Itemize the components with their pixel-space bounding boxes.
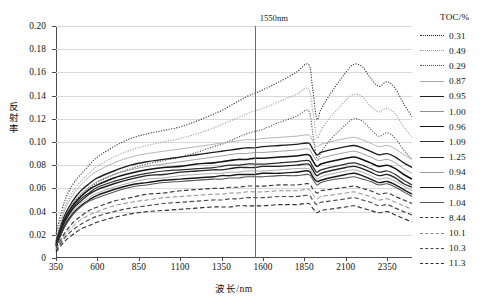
y-axis-title: 反射率: [6, 102, 20, 135]
legend-item[interactable]: 0.49: [420, 43, 502, 58]
x-tick-label: 2350: [378, 262, 397, 272]
legend-swatch: [420, 217, 444, 218]
x-tick-label: 1850: [295, 262, 314, 272]
legend-label: 10.3: [449, 243, 466, 253]
legend-item[interactable]: 11.3: [420, 256, 502, 271]
y-tick-label: 0: [41, 253, 46, 263]
y-tick-label: 0.14: [29, 91, 46, 101]
legend-swatch: [420, 126, 444, 127]
legend-swatch: [420, 96, 444, 97]
legend-label: 0.31: [449, 31, 466, 41]
x-tick-label: 350: [49, 262, 63, 272]
y-tick-label: 0.06: [29, 183, 46, 193]
legend-swatch: [420, 65, 444, 66]
legend-item[interactable]: 1.00: [420, 104, 502, 119]
legend-item[interactable]: 10.1: [420, 225, 502, 240]
series-line: [56, 64, 412, 234]
x-tick-label: 850: [132, 262, 146, 272]
legend: TOC/% 0.310.490.290.870.951.000.961.091.…: [420, 12, 502, 271]
legend-item[interactable]: 1.25: [420, 150, 502, 165]
y-tick-label: 0.18: [29, 44, 46, 54]
legend-swatch: [420, 35, 444, 36]
x-tick-label: 1350: [212, 262, 231, 272]
spectral-reflectance-chart: { "chart": { "type": "line", "y_axis_tit…: [0, 0, 502, 308]
x-tick-label: 2100: [336, 262, 355, 272]
legend-label: 0.49: [449, 46, 466, 56]
y-tick-label: 0.04: [29, 207, 46, 217]
legend-swatch: [420, 233, 444, 234]
legend-item[interactable]: 8.44: [420, 210, 502, 225]
x-tick-mark: [387, 258, 388, 261]
y-tick-label: 0.08: [29, 160, 46, 170]
legend-swatch: [420, 172, 444, 173]
legend-label: 0.96: [449, 122, 466, 132]
legend-label: 0.95: [449, 91, 466, 101]
legend-swatch: [420, 202, 444, 203]
legend-swatch: [420, 81, 444, 82]
wavelength-marker-line: [255, 26, 256, 258]
y-tick-label: 0.16: [29, 67, 46, 77]
legend-title: TOC/%: [440, 12, 502, 22]
legend-label: 8.44: [449, 213, 466, 223]
legend-label: 0.87: [449, 76, 466, 86]
series-line: [56, 149, 412, 243]
legend-swatch: [420, 248, 444, 249]
legend-item[interactable]: 0.95: [420, 89, 502, 104]
legend-item[interactable]: 0.94: [420, 165, 502, 180]
plot-area: 00.020.040.060.080.100.120.140.160.180.2…: [56, 26, 412, 258]
legend-label: 0.84: [449, 182, 466, 192]
legend-swatch: [420, 157, 444, 158]
legend-label: 11.3: [449, 258, 466, 268]
legend-swatch: [420, 187, 444, 188]
legend-swatch: [420, 111, 444, 112]
y-tick-label: 0.20: [29, 21, 46, 31]
x-tick-mark: [97, 258, 98, 261]
y-tick-label: 0.12: [29, 114, 46, 124]
series-line: [56, 203, 412, 252]
legend-label: 1.09: [449, 137, 466, 147]
legend-item[interactable]: 0.87: [420, 74, 502, 89]
x-tick-label: 600: [90, 262, 104, 272]
y-tick-label: 0.02: [29, 230, 46, 240]
legend-item[interactable]: 0.29: [420, 58, 502, 73]
legend-item[interactable]: 1.04: [420, 195, 502, 210]
legend-label: 10.1: [449, 228, 466, 238]
gridline: [56, 258, 412, 259]
x-tick-mark: [222, 258, 223, 261]
series-line: [56, 88, 412, 236]
x-tick-mark: [346, 258, 347, 261]
legend-item[interactable]: 1.09: [420, 134, 502, 149]
x-tick-label: 1100: [171, 262, 190, 272]
legend-item[interactable]: 0.84: [420, 180, 502, 195]
wavelength-marker-label: 1550nm: [260, 13, 288, 23]
y-tick-label: 0.10: [29, 137, 46, 147]
x-tick-mark: [180, 258, 181, 261]
legend-label: 0.94: [449, 167, 466, 177]
x-tick-label: 1600: [253, 262, 272, 272]
legend-item[interactable]: 0.31: [420, 28, 502, 43]
legend-label: 1.04: [449, 198, 466, 208]
legend-swatch: [420, 263, 444, 264]
legend-label: 1.25: [449, 152, 466, 162]
legend-item[interactable]: 0.96: [420, 119, 502, 134]
legend-item[interactable]: 10.3: [420, 241, 502, 256]
legend-swatch: [420, 141, 444, 142]
legend-label: 1.00: [449, 107, 466, 117]
legend-label: 0.29: [449, 61, 466, 71]
series-line: [56, 195, 412, 251]
series-line: [56, 171, 412, 247]
x-tick-mark: [304, 258, 305, 261]
legend-swatch: [420, 50, 444, 51]
x-tick-mark: [56, 258, 57, 261]
x-tick-mark: [139, 258, 140, 261]
x-axis-title: 波长/nm: [215, 281, 252, 295]
x-tick-mark: [263, 258, 264, 261]
curve-layer: [56, 26, 412, 258]
